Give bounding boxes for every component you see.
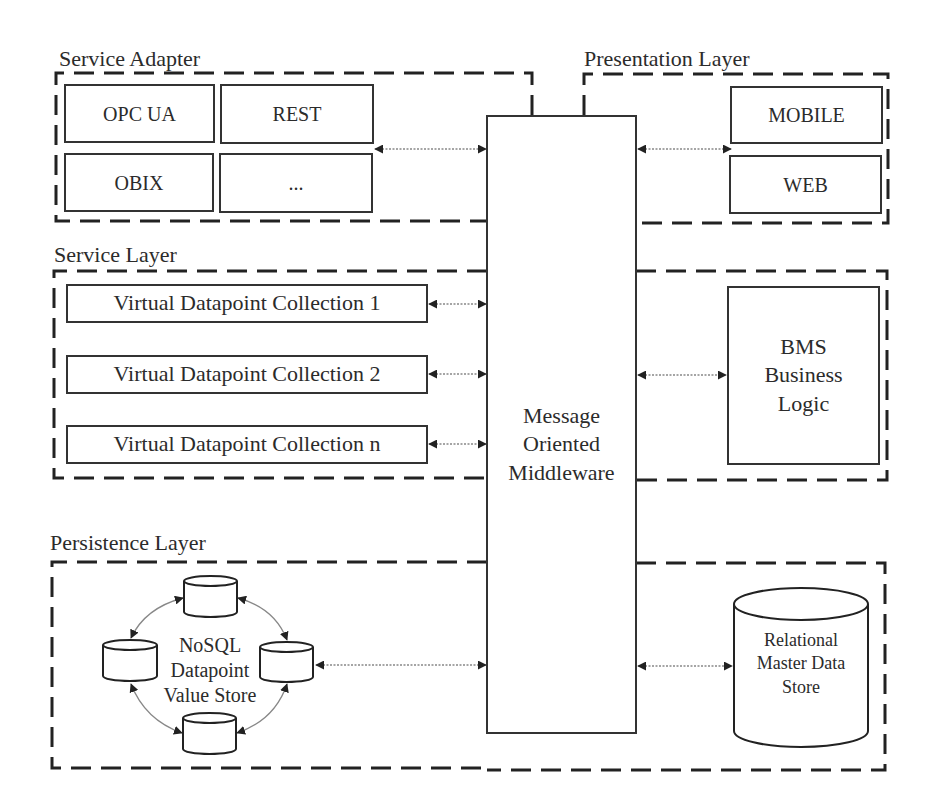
architecture-diagram: Service Adapter Presentation Layer Servi… [0,0,934,807]
virtual-datapoint-collection-2: Virtual Datapoint Collection 2 [66,355,428,394]
arc-top-left [131,598,183,638]
relational-master-data-store-label: Relational Master Data Store [738,629,864,699]
middleware-line-1: Message [523,402,600,431]
virtual-datapoint-collection-n: Virtual Datapoint Collection n [66,425,428,464]
relational-line-3: Store [738,676,864,699]
relational-line-2: Master Data [738,652,864,675]
presentation-layer-title: Presentation Layer [584,48,750,70]
nosql-line-3: Value Store [150,683,270,708]
message-oriented-middleware: Message Oriented Middleware [486,115,637,734]
presentation-mobile: MOBILE [730,86,883,144]
bms-line-3: Logic [778,390,829,419]
nosql-line-2: Datapoint [150,658,270,683]
database-cylinder-icon-bottom [183,713,236,754]
nosql-line-1: NoSQL [150,633,270,658]
bms-business-logic: BMS Business Logic [727,286,880,465]
middleware-line-2: Oriented [523,430,600,459]
adapter-more: ... [219,153,373,213]
database-cylinder-icon-top [184,576,237,617]
persistence-layer-title: Persistence Layer [50,532,206,554]
presentation-web: WEB [729,155,882,214]
bms-line-1: BMS [780,333,826,362]
database-cylinder-icon-left [103,640,157,681]
bms-line-2: Business [764,361,842,390]
adapter-obix: OBIX [64,153,214,212]
relational-line-1: Relational [738,629,864,652]
adapter-opc-ua: OPC UA [64,84,215,143]
virtual-datapoint-collection-1: Virtual Datapoint Collection 1 [66,284,428,323]
service-layer-title: Service Layer [54,244,177,266]
nosql-datapoint-value-store-label: NoSQL Datapoint Value Store [150,633,270,708]
middleware-line-3: Middleware [508,459,614,488]
service-adapter-title: Service Adapter [59,48,200,70]
adapter-rest: REST [220,84,374,144]
